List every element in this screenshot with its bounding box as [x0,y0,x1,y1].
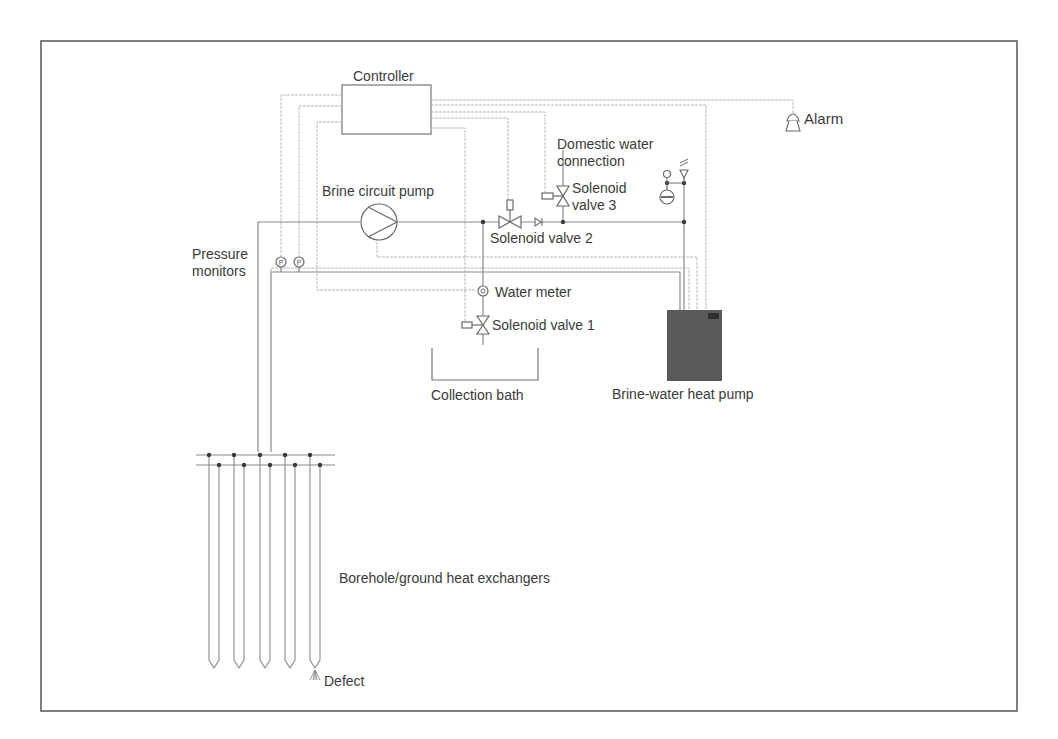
solenoid-valve-2-icon [499,200,521,228]
check-valve-icon [535,218,542,226]
svg-text:P: P [297,259,302,266]
solenoid-valve-3-label-line1: Solenoid [572,180,627,196]
frame [41,41,1017,711]
domestic-water-label-line1: Domestic water [557,136,653,152]
pressure-monitors-label-line2: monitors [192,263,246,279]
water-meter-label: Water meter [495,284,572,300]
controller-label: Controller [353,68,414,84]
water-meter-icon [478,286,488,296]
collection-bath-label: Collection bath [431,387,524,403]
pressure-monitors-label-line1: Pressure [192,246,248,262]
pressure-monitor-icons: P P [276,257,304,272]
collection-bath-icon [432,348,538,380]
solenoid-valve-3-icon [542,186,569,206]
expansion-vessel-icon [660,171,674,205]
diagram-canvas: P P [0,0,1058,739]
svg-text:P: P [279,259,284,266]
brine-pump-icon [361,204,397,240]
brine-pump-label: Brine circuit pump [322,183,434,199]
solenoid-valve-3-label-line2: valve 3 [572,197,616,213]
solenoid-valve-1-icon [462,316,489,334]
defect-leak-icon [310,670,320,680]
borehole-label: Borehole/ground heat exchangers [339,570,550,586]
heat-pump-icon [667,310,722,381]
controller-box [342,85,431,134]
domestic-water-label-line2: connection [557,153,625,169]
solenoid-valve-1-label: Solenoid valve 1 [492,317,595,333]
defect-label: Defect [324,673,364,689]
safety-valve-icon [680,159,688,183]
solenoid-valve-2-label: Solenoid valve 2 [490,230,593,246]
heat-pump-label: Brine-water heat pump [612,386,754,402]
alarm-label: Alarm [804,111,843,127]
alarm-icon [786,114,800,131]
borehole-exchangers [207,453,322,668]
